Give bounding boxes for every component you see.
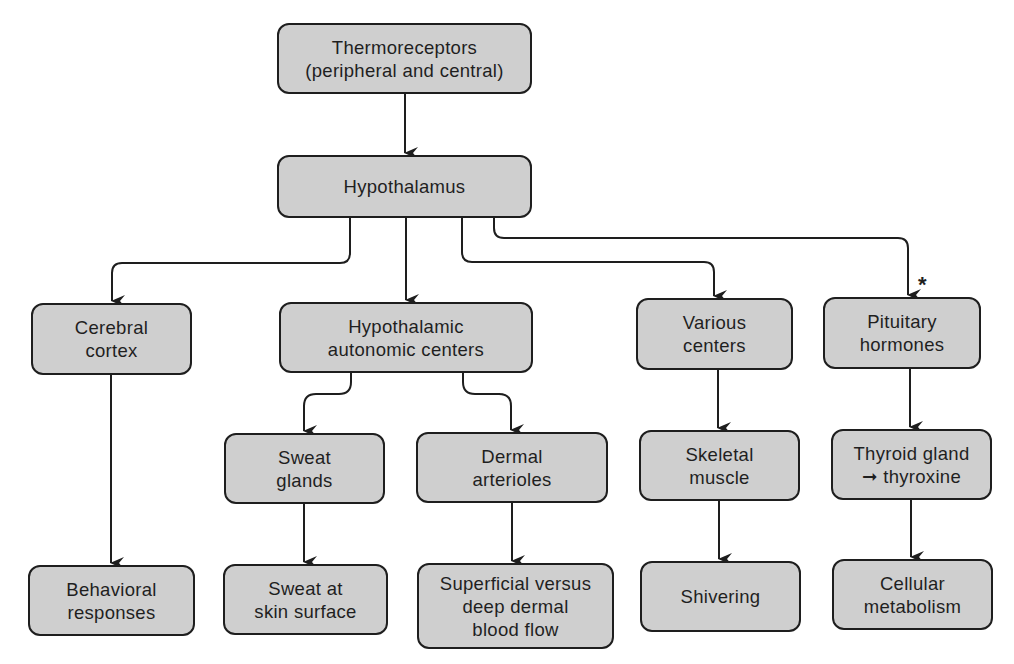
thermoregulation-flowchart: Thermoreceptors (peripheral and central)… xyxy=(0,0,1014,664)
node-label: Various centers xyxy=(683,311,746,357)
node-dermal-arterioles: Dermal arterioles xyxy=(416,432,608,503)
node-thyroid-gland: Thyroid gland ➞ thyroxine xyxy=(831,429,992,500)
node-label: Shivering xyxy=(681,585,761,608)
node-label: Behavioral responses xyxy=(66,578,156,624)
arrow-autonomic-dermal xyxy=(463,372,511,430)
node-various-centers: Various centers xyxy=(636,298,793,370)
arrow-hypothalamus-various-centers xyxy=(462,217,714,296)
node-behavioral-responses: Behavioral responses xyxy=(28,565,195,636)
node-hypothalamus: Hypothalamus xyxy=(277,155,532,218)
arrow-hypothalamus-pituitary xyxy=(494,217,908,295)
node-label: Skeletal muscle xyxy=(685,443,753,489)
node-label: Sweat at skin surface xyxy=(254,577,356,623)
node-sweat-glands: Sweat glands xyxy=(224,433,385,504)
node-label: Dermal arterioles xyxy=(472,445,551,491)
arrow-autonomic-sweat-glands xyxy=(304,372,351,431)
node-label: Thyroid gland ➞ thyroxine xyxy=(854,442,970,488)
node-cerebral-cortex: Cerebral cortex xyxy=(31,303,192,375)
node-dermal-blood-flow: Superficial versus deep dermal blood flo… xyxy=(417,563,614,649)
node-hypothalamic-autonomic-centers: Hypothalamic autonomic centers xyxy=(279,302,533,373)
arrow-hypothalamus-cerebral-cortex xyxy=(112,217,350,301)
node-cellular-metabolism: Cellular metabolism xyxy=(832,559,993,630)
node-skeletal-muscle: Skeletal muscle xyxy=(639,430,800,501)
node-label: Hypothalamic autonomic centers xyxy=(328,315,484,361)
node-label: Cerebral cortex xyxy=(75,316,148,362)
node-thermoreceptors: Thermoreceptors (peripheral and central) xyxy=(277,23,532,94)
pituitary-asterisk-marker: * xyxy=(918,272,927,298)
node-pituitary-hormones: Pituitary hormones xyxy=(823,297,981,369)
node-label: Superficial versus deep dermal blood flo… xyxy=(440,572,591,641)
node-label: Pituitary hormones xyxy=(860,310,945,356)
node-label: Hypothalamus xyxy=(344,175,466,198)
node-sweat-at-skin-surface: Sweat at skin surface xyxy=(223,564,388,635)
node-shivering: Shivering xyxy=(640,561,801,632)
node-label: Sweat glands xyxy=(276,446,332,492)
node-label: Cellular metabolism xyxy=(864,572,962,618)
node-label: Thermoreceptors (peripheral and central) xyxy=(305,36,503,82)
